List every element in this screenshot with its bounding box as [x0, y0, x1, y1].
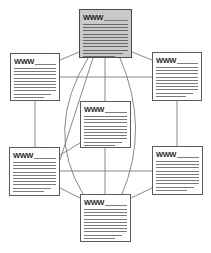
text-line: [84, 219, 127, 220]
document-text-lines: [14, 68, 56, 100]
document-header: WWW: [14, 57, 56, 66]
document-node-right-lower[interactable]: WWW: [152, 146, 203, 195]
text-line: [84, 135, 127, 136]
text-line: [156, 180, 199, 181]
document-node-center[interactable]: WWW: [80, 101, 131, 148]
text-line: [84, 122, 127, 123]
text-line: [84, 228, 127, 229]
text-line: [156, 77, 198, 78]
document-node-left-upper[interactable]: WWW: [10, 53, 60, 101]
edge-top-to-left-upper: [60, 52, 79, 60]
text-line: [156, 167, 199, 168]
document-body: WWW: [156, 150, 199, 191]
www-label: WWW: [84, 199, 104, 207]
www-label: WWW: [13, 152, 33, 160]
text-line: [14, 78, 56, 79]
text-line: [156, 83, 198, 84]
text-line: [156, 177, 199, 178]
header-rule: [105, 112, 127, 113]
text-line: [13, 191, 44, 192]
text-line: [13, 162, 56, 163]
header-rule: [104, 20, 128, 21]
document-node-top[interactable]: WWW: [79, 9, 132, 58]
text-line: [84, 225, 127, 226]
text-line: [156, 190, 187, 191]
document-text-lines: [84, 116, 127, 148]
text-line: [156, 80, 198, 81]
document-text-lines: [83, 24, 128, 58]
document-node-right-upper[interactable]: WWW: [152, 52, 202, 101]
text-line: [14, 74, 56, 75]
text-line: [84, 119, 127, 120]
text-line: [84, 215, 127, 216]
text-line: [13, 165, 56, 166]
text-line: [156, 171, 199, 172]
text-line: [83, 56, 115, 57]
text-line: [14, 87, 56, 88]
document-header: WWW: [13, 151, 56, 160]
text-line: [156, 89, 198, 90]
text-line: [84, 132, 127, 133]
document-body: WWW: [84, 105, 127, 144]
text-line: [83, 50, 128, 51]
text-line: [13, 172, 56, 173]
text-line: [13, 175, 56, 176]
text-line: [84, 145, 115, 146]
text-line: [84, 129, 127, 130]
text-line: [156, 187, 194, 188]
text-line: [84, 222, 127, 223]
text-line: [156, 183, 199, 184]
document-text-lines: [84, 209, 127, 241]
document-body: WWW: [84, 198, 127, 238]
text-line: [14, 68, 56, 69]
document-header: WWW: [84, 105, 127, 114]
text-line: [84, 235, 122, 236]
text-line: [83, 43, 128, 44]
header-rule: [34, 158, 56, 159]
header-rule: [35, 64, 56, 65]
text-line: [14, 81, 56, 82]
text-line: [83, 46, 128, 47]
edge-top-to-right-upper: [132, 52, 152, 60]
text-line: [84, 209, 127, 210]
text-line: [156, 161, 199, 162]
text-line: [156, 164, 199, 165]
text-line: [156, 70, 198, 71]
www-label: WWW: [83, 14, 103, 22]
text-line: [83, 53, 123, 54]
text-line: [84, 142, 122, 143]
document-header: WWW: [156, 56, 198, 65]
text-line: [14, 90, 56, 91]
text-line: [13, 181, 56, 182]
document-header: WWW: [83, 13, 128, 22]
document-text-lines: [13, 162, 56, 194]
text-line: [156, 67, 198, 68]
www-label: WWW: [84, 106, 104, 114]
text-line: [156, 73, 198, 74]
document-body: WWW: [14, 57, 56, 97]
text-line: [14, 94, 51, 95]
text-line: [83, 37, 128, 38]
text-line: [156, 96, 186, 97]
document-body: WWW: [83, 13, 128, 54]
header-rule: [177, 63, 198, 64]
document-text-lines: [156, 67, 198, 99]
document-header: WWW: [156, 150, 199, 159]
text-line: [83, 27, 128, 28]
document-text-lines: [156, 161, 199, 193]
www-label: WWW: [156, 151, 176, 159]
header-rule: [177, 157, 199, 158]
text-line: [13, 184, 56, 185]
document-node-bottom[interactable]: WWW: [80, 194, 131, 242]
www-label: WWW: [14, 58, 34, 66]
text-line: [84, 116, 127, 117]
document-header: WWW: [84, 198, 127, 207]
edge-center-to-left-lower: [60, 143, 80, 155]
text-line: [14, 97, 44, 98]
text-line: [83, 34, 128, 35]
text-line: [84, 238, 115, 239]
www-label: WWW: [156, 57, 176, 65]
document-node-left-lower[interactable]: WWW: [9, 147, 60, 196]
edge-bottom-to-right-lower: [131, 188, 152, 198]
text-line: [13, 178, 56, 179]
